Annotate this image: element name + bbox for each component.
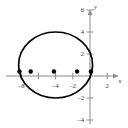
point-marker <box>52 69 56 73</box>
y-tick-label--4: –4 <box>77 116 85 123</box>
marked-points <box>17 69 93 73</box>
x-axis-arrowhead <box>113 74 118 79</box>
y-tick-label-2: 2 <box>81 50 84 57</box>
point-marker <box>75 69 79 73</box>
x-tick-label--4: –4 <box>51 82 59 89</box>
y-axis-name: y <box>93 3 97 10</box>
point-marker <box>17 69 21 73</box>
point-marker <box>29 69 33 73</box>
y-axis-group <box>88 10 93 124</box>
y-tick-label--2: –2 <box>77 94 85 101</box>
x-axis-group <box>6 74 118 79</box>
y-tick-label-6: 6 <box>81 6 85 13</box>
x-axis-name: x <box>118 77 122 84</box>
coordinate-plot: –8 –4 –2 2 6 4 2 –2 –4 x y <box>0 0 128 128</box>
point-marker <box>89 69 93 73</box>
x-tick-label-2: 2 <box>106 82 109 89</box>
graph-figure: –8 –4 –2 2 6 4 2 –2 –4 x y <box>0 0 128 128</box>
x-tick-labels: –8 –4 –2 2 <box>17 82 109 89</box>
y-axis-arrowhead <box>88 10 93 15</box>
y-tick-labels: 6 4 2 –2 –4 <box>77 6 85 123</box>
x-tick-label--2: –2 <box>69 82 77 89</box>
y-tick-label-4: 4 <box>81 28 85 35</box>
x-tick-label--8: –8 <box>17 82 25 89</box>
